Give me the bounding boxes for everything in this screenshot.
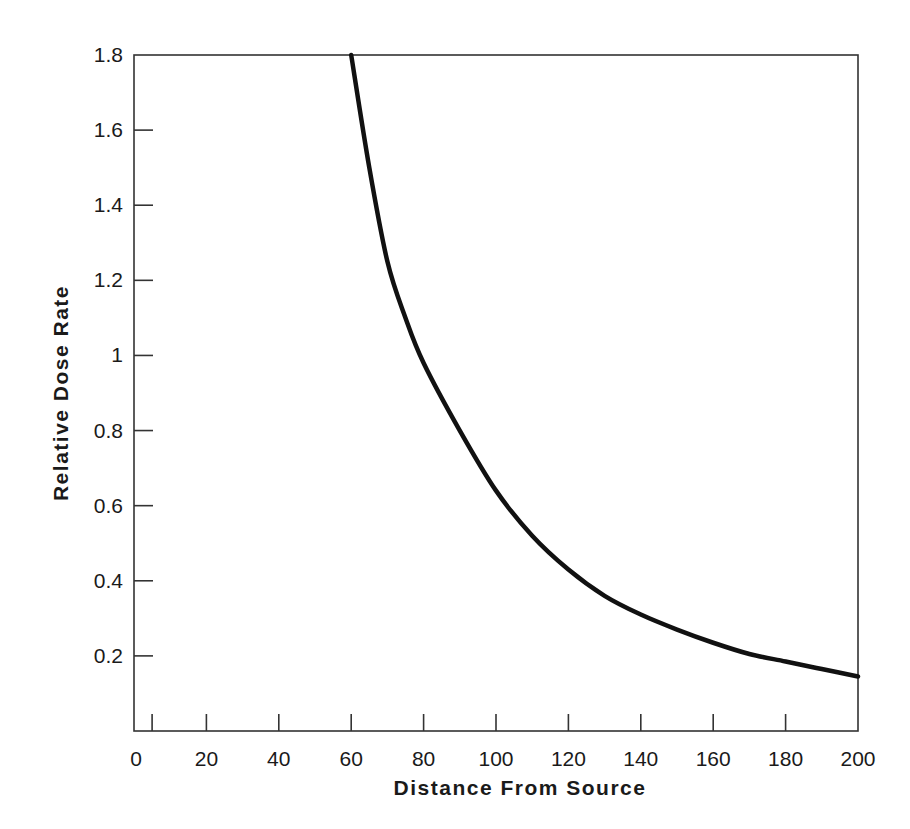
x-axis-tick-labels: 020406080100120140160180200 (130, 747, 875, 770)
y-tick-label: 0.4 (94, 569, 124, 592)
x-tick-label: 160 (696, 747, 731, 770)
x-tick-label: 120 (551, 747, 586, 770)
y-tick-label: 1.4 (94, 193, 124, 216)
y-tick-label: 1.2 (94, 268, 123, 291)
x-tick-label: 60 (340, 747, 363, 770)
x-tick-label: 0 (130, 747, 142, 770)
x-tick-label: 20 (195, 747, 218, 770)
x-tick-label: 140 (623, 747, 658, 770)
y-axis-ticks (134, 130, 153, 656)
x-tick-label: 40 (267, 747, 290, 770)
x-tick-label: 200 (840, 747, 875, 770)
chart: 0.20.40.60.811.21.41.61.8 02040608010012… (0, 0, 910, 829)
x-tick-label: 100 (478, 747, 513, 770)
y-tick-label: 1.8 (94, 43, 123, 66)
x-axis-title: Distance From Source (394, 776, 647, 799)
dose-rate-curve (351, 55, 858, 677)
y-tick-label: 1.6 (94, 118, 123, 141)
y-tick-label: 0.8 (94, 419, 123, 442)
y-tick-label: 1 (111, 343, 123, 366)
x-axis-ticks (152, 714, 786, 731)
y-tick-label: 0.2 (94, 644, 123, 667)
plot-frame (134, 55, 858, 731)
y-axis-title: Relative Dose Rate (49, 285, 72, 501)
x-tick-label: 80 (412, 747, 435, 770)
y-tick-label: 0.6 (94, 494, 123, 517)
x-tick-label: 180 (768, 747, 803, 770)
y-axis-tick-labels: 0.20.40.60.811.21.41.61.8 (94, 43, 124, 667)
